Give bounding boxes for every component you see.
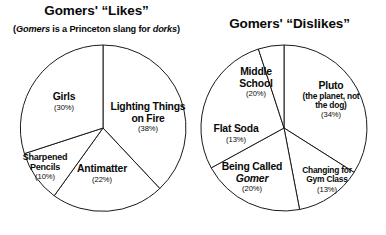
chart-panel-likes: Gomers' “Likes” (Gomers is a Princeton s… [0,0,193,235]
pie-label-text-line2: Gym Class [290,175,364,184]
pie-label-percent: (30%) [33,104,95,113]
pie-label-text-line1: Lighting Things [104,101,192,113]
pie-label-text-line1: Middle [224,66,288,78]
pie-label-text-line1: Being Called [213,161,291,173]
pie-label-text-line2-italic: Gomer [236,173,269,184]
pie-label-percent: (20%) [224,90,288,99]
pie-label-being-called-gomer: Being Called Gomer (20%) [213,161,291,194]
pie-label-text-line2: on Fire [104,113,192,125]
pie-label-pluto: Pluto (the planet, not the dog) (34%) [288,80,374,120]
pie-label-girls: Girls (30%) [33,91,95,112]
pie-label-percent: (34%) [288,111,374,120]
pie-label-lighting-things-on-fire: Lighting Things on Fire (38%) [104,101,192,134]
pie-label-percent: (22%) [66,176,138,185]
chart-panel-dislikes: Gomers' “Dislikes” Pluto (the planet, no… [193,0,386,235]
pie-label-text-line3: the dog) [288,101,374,110]
pie-label-flat-soda: Flat Soda (13%) [199,123,273,144]
pie-label-middle-school: Middle School (20%) [224,66,288,99]
pie-label-sharpened-pencils: Sharpened Pencils (10%) [16,152,74,182]
pie-label-text-line1: Flat Soda [199,123,273,135]
pie-label-percent: (10%) [16,173,74,182]
pie-label-text-line2: School [224,78,288,90]
pie-label-text-line1: Pluto [288,80,374,92]
pie-label-text-line1: Girls [33,91,95,103]
pie-label-text-line2: Pencils [16,162,74,172]
pie-label-percent: (13%) [290,186,364,195]
pie-label-percent: (38%) [104,125,192,134]
pie-label-text-line1: Antimatter [66,163,138,175]
pie-label-text-line1: Sharpened [16,152,74,162]
pie-label-percent: (20%) [213,185,291,194]
pie-label-percent: (13%) [199,136,273,145]
pie-label-changing-for-gym-class: Changing for Gym Class (13%) [290,166,364,194]
pie-label-antimatter: Antimatter (22%) [66,163,138,184]
